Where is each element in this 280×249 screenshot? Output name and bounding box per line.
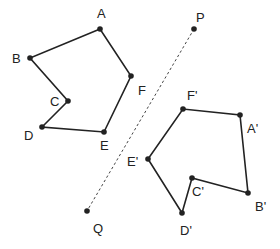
label-d: D — [24, 128, 33, 143]
point-e-prime — [145, 156, 151, 162]
vertex-labels: ABCDEFA'B'C'D'E'F'PQ — [12, 6, 266, 238]
point-f-prime — [180, 106, 186, 112]
point-a — [97, 26, 103, 32]
label-d-prime: D' — [180, 223, 192, 238]
point-d-prime — [179, 210, 185, 216]
point-c — [65, 98, 71, 104]
reflection-diagram: ABCDEFA'B'C'D'E'F'PQ — [0, 0, 280, 249]
point-d — [39, 124, 45, 130]
label-a-prime: A' — [247, 121, 258, 136]
label-a: A — [97, 6, 106, 21]
point-c-prime — [189, 175, 195, 181]
label-f-prime: F' — [187, 88, 197, 103]
point-e — [101, 129, 107, 135]
label-e: E — [100, 138, 109, 153]
vertex-points — [27, 26, 251, 216]
point-q — [84, 208, 90, 214]
point-a-prime — [237, 112, 243, 118]
label-q: Q — [93, 221, 103, 236]
original-hexagon — [30, 29, 131, 132]
label-c-prime: C' — [192, 184, 204, 199]
label-c: C — [50, 94, 59, 109]
label-f: F — [138, 83, 146, 98]
point-f — [128, 73, 134, 79]
point-b — [27, 55, 33, 61]
point-b-prime — [245, 190, 251, 196]
label-e-prime: E' — [127, 154, 138, 169]
label-b: B — [12, 51, 21, 66]
point-p — [191, 26, 197, 32]
label-b-prime: B' — [255, 199, 266, 214]
label-p: P — [196, 10, 205, 25]
mirror-line-pq — [87, 29, 194, 211]
